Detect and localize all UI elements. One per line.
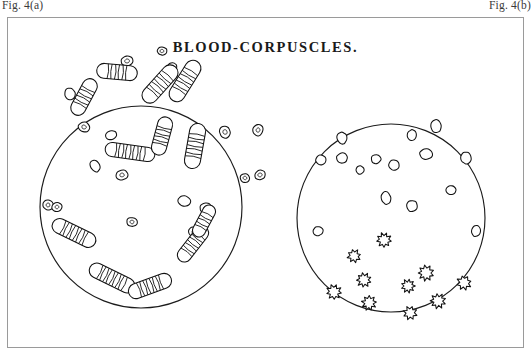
blood-corpuscle — [407, 201, 418, 212]
rouleau-stack — [151, 117, 172, 155]
blood-corpuscle — [389, 160, 399, 170]
crenated-corpuscle — [402, 279, 416, 293]
crenated-corpuscle — [347, 250, 360, 263]
plate-frame: BLOOD-CORPUSCLES. — [7, 17, 524, 348]
blood-corpuscle — [65, 88, 75, 100]
rouleau-stack — [105, 142, 155, 161]
crenated-corpuscle — [327, 285, 342, 300]
figure-label-right: Fig. 4(b) — [489, 0, 531, 11]
rouleau-stack — [192, 205, 215, 237]
crenated-corpuscle — [357, 273, 371, 287]
right-blood-field — [297, 120, 485, 320]
blood-corpuscle — [446, 186, 456, 195]
blood-corpuscle — [461, 152, 472, 164]
rouleau-outline — [97, 63, 138, 80]
blood-corpuscle — [90, 160, 100, 172]
blood-corpuscle — [431, 120, 441, 133]
corpuscle-centre — [120, 173, 124, 177]
rouleau-outline — [105, 142, 155, 161]
corpuscle-centre — [243, 176, 247, 179]
rouleau-outline — [192, 205, 215, 237]
left-blood-field — [40, 47, 265, 308]
blood-corpuscle — [420, 149, 433, 160]
blood-corpuscle — [356, 166, 364, 174]
corpuscle-centre — [160, 49, 164, 52]
blood-corpuscle — [472, 226, 481, 237]
crenated-corpuscle — [377, 233, 391, 248]
blood-corpuscle — [316, 155, 326, 165]
blood-corpuscle — [106, 131, 117, 140]
rouleau-stack — [184, 123, 205, 168]
blood-corpuscles-illustration — [8, 18, 525, 349]
crenated-corpuscle — [457, 276, 471, 290]
blood-corpuscle — [313, 227, 323, 236]
crenated-corpuscle — [418, 265, 433, 281]
rouleau-stack — [128, 273, 171, 298]
rouleau-outline — [184, 123, 205, 168]
corpuscle-centre — [223, 130, 227, 134]
corpuscle-centre — [46, 203, 50, 207]
rouleau-outline — [89, 263, 135, 293]
figure-page: Fig. 4(a) Fig. 4(b) BLOOD-CORPUSCLES. — [0, 0, 532, 356]
corpuscle-centre — [130, 220, 134, 224]
corpuscle-centre — [256, 128, 260, 132]
figure-label-left: Fig. 4(a) — [2, 0, 43, 11]
rouleau-stack — [52, 218, 96, 247]
blood-corpuscle — [371, 155, 381, 164]
rouleau-outline — [128, 273, 171, 298]
blood-corpuscle — [178, 196, 191, 207]
corpuscle-centre — [55, 205, 59, 209]
corpuscle-centre — [125, 59, 130, 63]
corpuscle-centre — [82, 125, 86, 129]
blood-corpuscle — [407, 130, 416, 141]
rouleau-stack — [97, 63, 138, 80]
corpuscle-centre — [258, 173, 262, 177]
rouleau-outline — [52, 218, 96, 247]
rouleau-stack — [89, 263, 135, 293]
panel-right-field-outline — [297, 124, 485, 312]
blood-corpuscle — [337, 132, 347, 144]
blood-corpuscle — [337, 153, 348, 163]
blood-corpuscle — [381, 191, 391, 204]
